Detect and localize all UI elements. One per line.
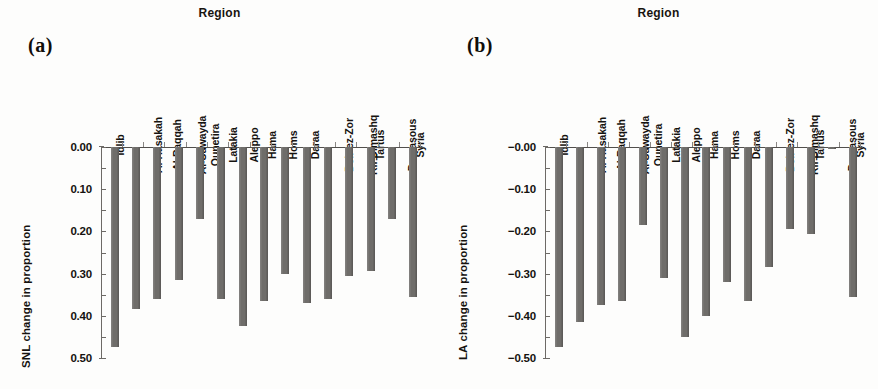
bar[interactable] [303,147,311,303]
bar-slot [758,147,779,358]
bar-slot [716,147,737,358]
y-tick-label: 0.40 [70,310,92,322]
bar[interactable] [618,147,626,301]
bar[interactable] [324,147,332,299]
x-tick-mark [755,142,756,147]
y-tick-label: 0.30 [70,268,92,280]
bar[interactable] [367,147,375,271]
bar-slot [253,147,274,358]
bar-slot [211,147,232,358]
panel-b-tag: (b) [467,34,493,57]
bar[interactable] [153,147,161,299]
x-tick-mark [250,142,251,147]
bar[interactable] [807,147,815,234]
bar[interactable] [239,147,247,326]
bar[interactable] [111,147,119,347]
x-tick-mark [335,142,336,147]
panel-a-category-labels: IdlibAl-HasakahAl-RaqqahAl-SuwaydaQuneti… [104,0,424,147]
x-tick-mark [671,142,672,147]
x-tick-mark [122,142,123,147]
x-tick-mark [378,142,379,147]
bar[interactable] [849,147,857,297]
panel-b-plot-area: −0.00−0.10−0.20−0.30−0.40−0.50−0.60−0.70… [548,147,863,358]
bar-slot [168,147,189,358]
x-tick-mark [776,142,777,147]
bar-slot [695,147,716,358]
x-tick-mark [839,142,840,147]
bar[interactable] [132,147,140,309]
y-tick-label: 0.50 [70,352,92,364]
bar[interactable] [217,147,225,299]
x-tick-mark [692,142,693,147]
bar-slot [611,147,632,358]
bar[interactable] [196,147,204,219]
bar[interactable] [828,147,836,149]
bar[interactable] [260,147,268,301]
x-tick-mark [143,142,144,147]
bar-slot [232,147,253,358]
bar[interactable] [660,147,668,278]
bar-slot [296,147,317,358]
bar[interactable] [786,147,794,229]
bar-slot [403,147,424,358]
panel-a-bars [104,147,424,358]
y-tick-label: 0.10 [70,183,92,195]
bar-slot [104,147,125,358]
bar[interactable] [281,147,289,274]
x-tick-mark [356,142,357,147]
bar-slot [821,147,842,358]
y-tick-label: −0.10 [508,183,536,195]
bar[interactable] [388,147,396,219]
x-tick-mark [164,142,165,147]
bar-slot [569,147,590,358]
bar-slot [317,147,338,358]
figure-two-panel-bar-charts: Region (a) SNL change in proportion Idli… [0,0,878,389]
bar-slot [800,147,821,358]
panel-b-y-axis-title: LA change in proportion [457,140,469,360]
bar-slot [381,147,402,358]
y-tick-label: 0.00 [70,141,92,153]
x-tick-mark [399,142,400,147]
bar[interactable] [702,147,710,316]
y-tick-label: −0.20 [508,225,536,237]
bar-slot [147,147,168,358]
bar[interactable] [723,147,731,282]
bar-slot [674,147,695,358]
bar[interactable] [555,147,563,347]
x-tick-mark [314,142,315,147]
y-tick-label: −0.30 [508,268,536,280]
bar[interactable] [175,147,183,280]
bar-slot [339,147,360,358]
bar[interactable] [576,147,584,322]
bar-slot [275,147,296,358]
panel-a-tag: (a) [28,34,53,57]
bar[interactable] [765,147,773,267]
x-tick-mark [228,142,229,147]
x-tick-mark [420,142,421,147]
x-tick-mark [207,142,208,147]
bar[interactable] [597,147,605,305]
bar-slot [360,147,381,358]
bar[interactable] [639,147,647,225]
bar-slot [737,147,758,358]
x-tick-mark [734,142,735,147]
y-tick-label: 0.20 [70,225,92,237]
bar-slot [632,147,653,358]
y-tick-label: −0.50 [508,352,536,364]
y-tick-mark: −1.00 [545,358,550,359]
bar-slot [125,147,146,358]
x-tick-mark [608,142,609,147]
panel-a: Region (a) SNL change in proportion Idli… [0,0,439,389]
x-tick-mark [629,142,630,147]
x-tick-mark [566,142,567,147]
bar-slot [842,147,863,358]
bar[interactable] [744,147,752,301]
bar[interactable] [681,147,689,337]
panel-b-category-labels: IdlibAl-HasakahAl-RaqqahAl-SuwaydaQuneti… [548,0,863,147]
panel-b: Region (b) LA change in proportion Idlib… [439,0,878,389]
bar-slot [189,147,210,358]
bar-slot [590,147,611,358]
y-tick-mark: −1.00 [101,358,106,359]
bar[interactable] [345,147,353,276]
bar[interactable] [409,147,417,297]
